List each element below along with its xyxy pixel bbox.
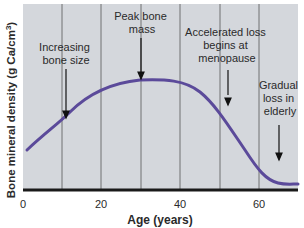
x-tick-60: 60: [253, 198, 265, 210]
chart: Increasing bone size Peak bone mass Acce…: [0, 0, 304, 228]
annotation-gradual-loss: Gradual loss in elderly: [259, 79, 301, 117]
x-tick-40: 40: [174, 198, 186, 210]
x-axis-label: Age (years): [127, 213, 192, 227]
y-axis-label: Bone mineral density (g Ca/cm3): [4, 22, 17, 199]
x-tick-20: 20: [95, 198, 107, 210]
x-tick-0: 0: [20, 198, 26, 210]
x-tick-labels: 0 20 40 60: [20, 198, 265, 210]
annotation-increasing-bone-size: Increasing bone size: [39, 41, 93, 66]
